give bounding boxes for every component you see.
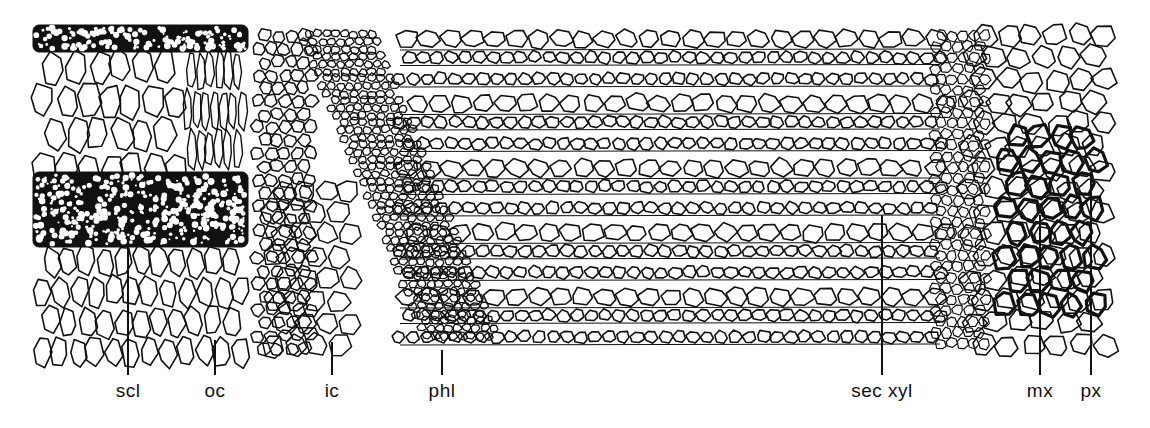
label-scl: scl — [116, 380, 141, 402]
cell-network — [31, 23, 1118, 369]
label-oc: oc — [204, 380, 225, 402]
label-phl: phl — [429, 380, 456, 402]
label-sec-xyl: sec xyl — [851, 380, 913, 402]
label-ic: ic — [325, 380, 340, 402]
label-mx: mx — [1027, 380, 1053, 402]
label-px: px — [1080, 380, 1101, 402]
tissue-section-drawing — [0, 0, 1150, 428]
